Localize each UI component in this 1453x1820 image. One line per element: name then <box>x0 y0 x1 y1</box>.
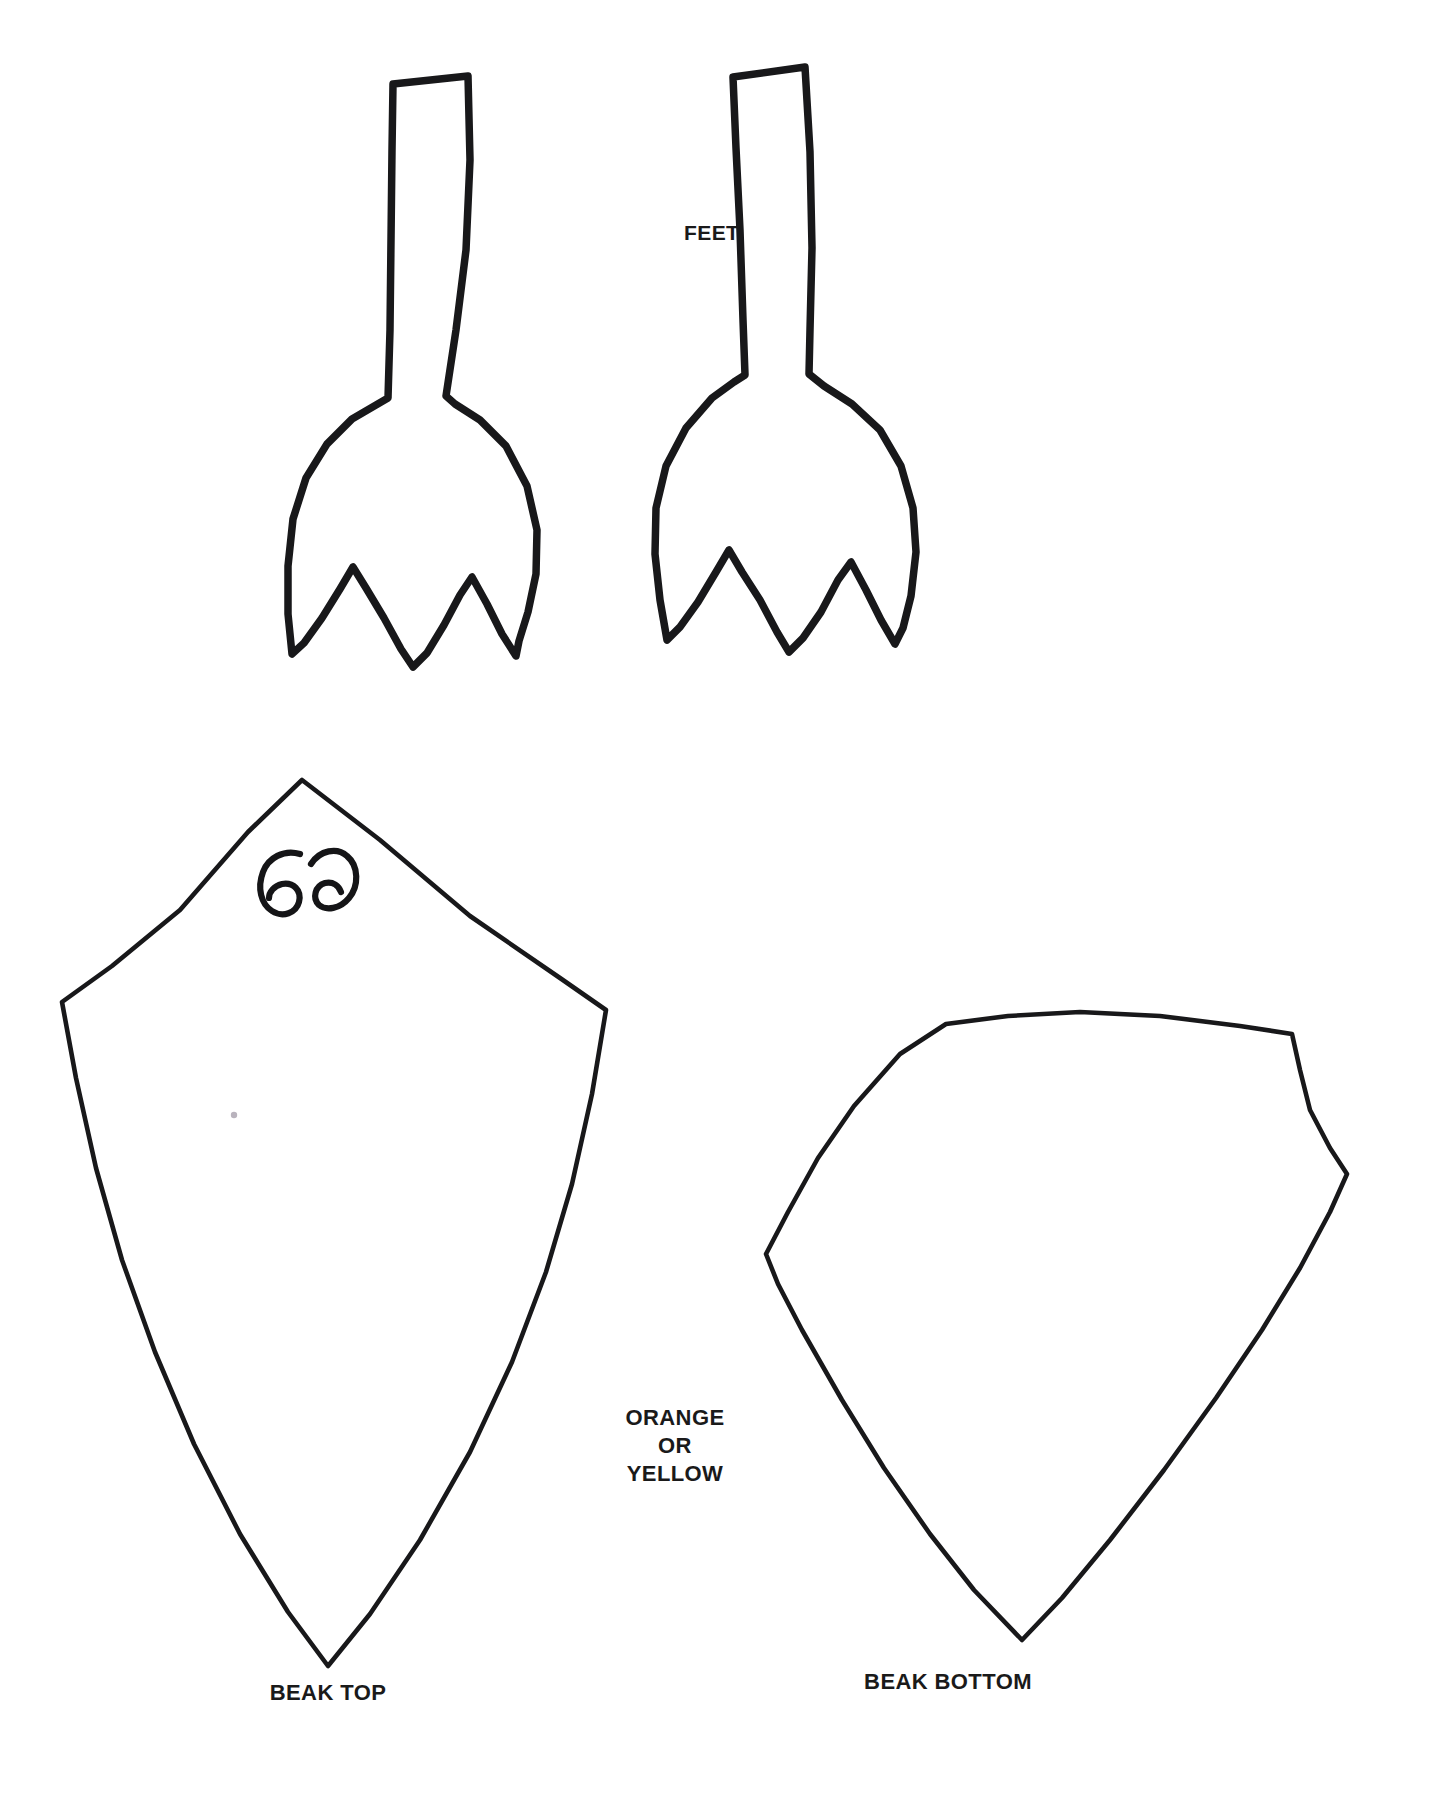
color-note-line-3: YELLOW <box>565 1460 785 1488</box>
beak-top-label: BEAK TOP <box>230 1679 426 1707</box>
paper-speck <box>231 1112 237 1118</box>
beak-bottom-label: BEAK BOTTOM <box>823 1668 1073 1696</box>
feet-label: FEET <box>684 220 739 247</box>
template-artwork <box>0 0 1453 1820</box>
color-note-line-1: ORANGE <box>565 1404 785 1432</box>
page-background <box>0 0 1453 1820</box>
template-page: FEET ORANGE OR YELLOW BEAK TOP BEAK BOTT… <box>0 0 1453 1820</box>
color-note-label: ORANGE OR YELLOW <box>565 1404 785 1488</box>
color-note-line-2: OR <box>565 1432 785 1460</box>
